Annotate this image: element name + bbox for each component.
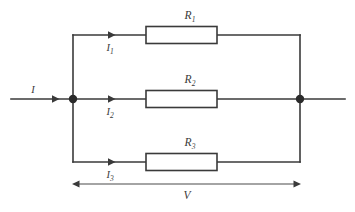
branch-3-current-arrow-icon <box>108 158 116 166</box>
branch-3-current-label: I3 <box>105 169 114 183</box>
branch-2-current-arrow-icon <box>108 95 116 103</box>
resistor-3-label: R3 <box>184 136 196 151</box>
resistor-1-label: R1 <box>184 9 196 24</box>
total-current-arrow-icon <box>52 95 60 103</box>
resistor-2-body <box>146 91 217 108</box>
left-junction-node <box>69 95 77 103</box>
resistor-3-body <box>146 154 217 171</box>
voltage-label: V <box>183 189 192 201</box>
resistor-1-body <box>146 27 217 44</box>
resistor-2-label: R2 <box>184 73 196 88</box>
voltage-arrow-right-icon <box>294 180 302 187</box>
branch-2-current-label: I2 <box>105 106 114 120</box>
parallel-resistor-schematic: R1 R2 R3 I I1 I2 I3 V <box>0 0 355 212</box>
total-current-label: I <box>30 84 35 95</box>
right-junction-node <box>296 95 304 103</box>
circuit-diagram: R1 R2 R3 I I1 I2 I3 V <box>0 0 355 212</box>
voltage-arrow-left-icon <box>72 180 80 187</box>
branch-1-current-label: I1 <box>105 42 113 56</box>
branch-1-current-arrow-icon <box>108 31 116 39</box>
